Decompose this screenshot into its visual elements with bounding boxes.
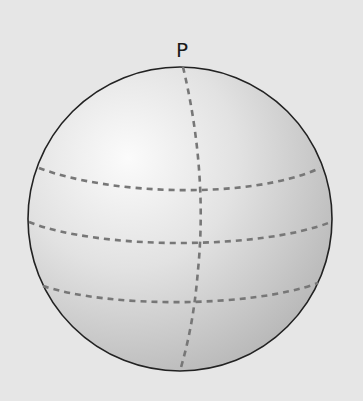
pole-label: P xyxy=(176,38,188,62)
sphere xyxy=(28,67,332,371)
